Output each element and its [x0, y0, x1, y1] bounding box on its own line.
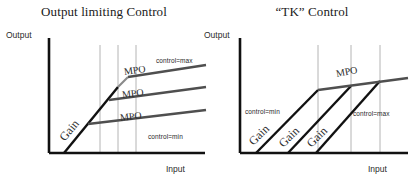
label-control-min-right: control=min: [245, 108, 280, 115]
plot-output-limiting: [0, 0, 208, 185]
mpo-ceiling-min: [88, 110, 206, 124]
plot-tk-control: [208, 0, 416, 185]
mpo-ceiling-shared: [318, 78, 408, 90]
panel-output-limiting: Output limiting Control Output Input con…: [0, 0, 208, 185]
gain-line-3: [316, 81, 380, 153]
knee-transition: [118, 77, 128, 87]
compression-control-figure: Output limiting Control Output Input con…: [0, 0, 416, 185]
label-control-min-left: control=min: [148, 133, 183, 140]
label-control-max-right: control=max: [353, 110, 390, 117]
panel-tk-control: “TK” Control Output Input MPO control=mi…: [208, 0, 416, 185]
label-control-max-left: control=max: [156, 57, 193, 64]
